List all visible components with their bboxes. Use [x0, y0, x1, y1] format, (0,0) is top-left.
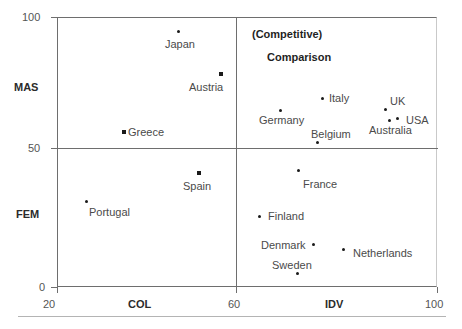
- data-label-portugal: Portugal: [89, 206, 130, 218]
- data-point-netherlands[interactable]: [342, 248, 345, 251]
- data-label-spain: Spain: [183, 180, 211, 192]
- x-axis-tick-label-20: 20: [43, 298, 55, 310]
- quadrant-divider-vertical: [236, 17, 237, 288]
- data-label-uk: UK: [390, 95, 405, 107]
- data-point-spain[interactable]: [197, 171, 201, 175]
- x-axis-label-idv: IDV: [325, 298, 343, 310]
- chart-title-line-2: Comparison: [267, 51, 331, 64]
- data-point-belgium[interactable]: [316, 141, 319, 144]
- data-label-denmark: Denmark: [261, 239, 306, 251]
- y-axis-tick-label-0: 0: [39, 281, 45, 293]
- data-label-australia: Australia: [369, 124, 412, 136]
- data-point-sweden[interactable]: [296, 272, 299, 275]
- data-label-france: France: [303, 178, 337, 190]
- y-tick-50: [51, 148, 57, 149]
- data-point-uk[interactable]: [384, 108, 387, 111]
- data-label-italy: Italy: [329, 92, 349, 104]
- data-point-germany[interactable]: [279, 109, 282, 112]
- x-tick-60: [236, 287, 237, 293]
- y-tick-100: [51, 17, 57, 18]
- data-label-japan: Japan: [165, 38, 195, 50]
- y-axis-tick-label-100: 100: [22, 11, 40, 23]
- data-point-denmark[interactable]: [312, 243, 315, 246]
- data-point-usa[interactable]: [396, 117, 399, 120]
- y-axis-tick-label-50: 50: [28, 142, 40, 154]
- x-axis-label-col: COL: [128, 298, 151, 310]
- data-label-germany: Germany: [259, 114, 304, 126]
- bottom-separator-rule: [18, 316, 446, 317]
- data-label-austria: Austria: [189, 81, 223, 93]
- data-label-greece: Greece: [128, 126, 164, 138]
- data-point-portugal[interactable]: [85, 200, 88, 203]
- data-point-france[interactable]: [297, 169, 300, 172]
- chart-title-line-1: (Competitive): [252, 28, 322, 41]
- data-label-belgium: Belgium: [311, 128, 351, 140]
- data-point-greece[interactable]: [122, 130, 126, 134]
- x-axis-tick-label-60: 60: [228, 298, 240, 310]
- data-label-netherlands: Netherlands: [353, 247, 412, 259]
- y-axis-label-mas: MAS: [14, 81, 38, 93]
- x-axis-tick-label-100: 100: [425, 298, 443, 310]
- scatter-plot-figure: 100 50 0 MAS FEM 20 60 100 COL IDV (Comp…: [0, 0, 462, 329]
- data-point-finland[interactable]: [258, 215, 261, 218]
- data-point-italy[interactable]: [321, 97, 324, 100]
- data-label-sweden: Sweden: [272, 259, 312, 271]
- data-point-australia[interactable]: [388, 119, 391, 122]
- quadrant-divider-horizontal: [57, 148, 438, 149]
- data-point-japan[interactable]: [177, 30, 180, 33]
- data-label-finland: Finland: [268, 210, 304, 222]
- x-tick-100: [437, 287, 438, 293]
- x-tick-20: [57, 287, 58, 293]
- data-point-austria[interactable]: [219, 72, 223, 76]
- y-axis-label-fem: FEM: [16, 208, 39, 220]
